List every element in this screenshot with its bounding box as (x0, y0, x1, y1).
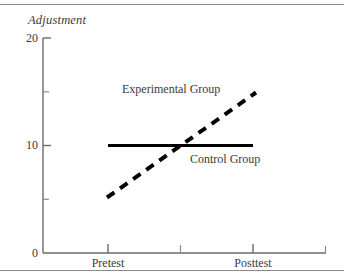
series-label-control-group: Control Group (190, 152, 260, 167)
figure-container: Adjustment 20 10 0 Pretest Posttest Expe… (0, 0, 344, 280)
x-tick-label-posttest: Posttest (208, 256, 298, 271)
y-axis-title: Adjustment (28, 13, 86, 28)
y-tick-label-0: 0 (12, 246, 38, 261)
series-label-experimental-group: Experimental Group (122, 82, 220, 97)
y-tick-label-20: 20 (12, 31, 38, 46)
x-tick-label-pretest: Pretest (63, 256, 153, 271)
line-chart-plot (0, 0, 344, 280)
y-tick-label-10: 10 (12, 138, 38, 153)
